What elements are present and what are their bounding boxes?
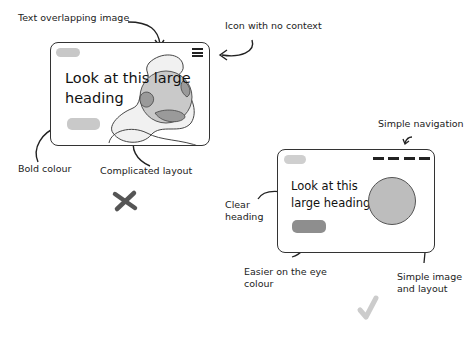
good-heading: Look at this large heading [291, 178, 370, 212]
nav-item[interactable] [388, 157, 399, 160]
nav-item[interactable] [373, 157, 384, 160]
simple-circle-image [368, 177, 416, 225]
good-heading-line-1: Look at this [291, 178, 370, 195]
annotation-clear-heading: Clear heading [225, 199, 263, 223]
good-card: Look at this large heading [277, 149, 435, 253]
subtle-button[interactable] [292, 220, 326, 233]
logo-placeholder [284, 155, 306, 164]
nav-item[interactable] [404, 157, 415, 160]
good-heading-line-2: large heading [291, 195, 370, 212]
annotation-simple-image: Simple image and layout [397, 271, 462, 295]
annotation-easier-colour: Easier on the eye colour [244, 266, 327, 290]
check-mark-icon [357, 295, 379, 321]
simple-navigation[interactable] [373, 157, 430, 160]
nav-item[interactable] [419, 157, 430, 160]
